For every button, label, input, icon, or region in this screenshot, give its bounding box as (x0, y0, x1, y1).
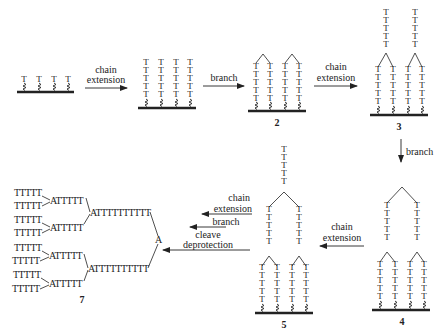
nucleotide-t: T (187, 89, 193, 99)
arrow-label: chain (228, 192, 250, 203)
nucleotide-t: T (274, 294, 280, 304)
mid-sequence: ATTTTT (50, 195, 84, 206)
mid-sequence: ATTTTT (49, 250, 83, 261)
nucleotide-t: T (65, 74, 71, 84)
trunk-sequence: ATTTTTTTTTT (88, 263, 149, 274)
arrow-label: chain (325, 61, 347, 72)
mid-sequence: ATTTTT (49, 278, 83, 289)
arrow-chain-extension-3: chain extension (320, 221, 364, 246)
structure-4: TTTTTTTTTTTTTTTTTTTTTTTTTTTTTT 4 (372, 187, 430, 327)
nucleotide-t: T (375, 96, 381, 106)
arrow-label: deprotection (183, 239, 233, 250)
trunk-sequence: ATTTTTTTTTT (90, 207, 151, 218)
arrow-final-steps: chain extension branch cleave deprotecti… (163, 192, 252, 250)
arrow-label: extension (317, 72, 355, 83)
structure-5: TTTTTTTTTTTTTTTTTTTTTTTTTTTTTTTTTTT 5 (255, 144, 313, 330)
dendrimer-synthesis-scheme: T T T T chain extension TTTTTTTTTTTTTTTT… (0, 0, 447, 336)
arrow-label: branch (210, 72, 237, 83)
compound-label-7: 7 (80, 294, 85, 305)
nucleotide-t: T (405, 96, 411, 106)
nucleotide-t: T (407, 291, 413, 301)
nucleotide-t: T (384, 232, 390, 242)
arrow-label: branch (212, 216, 239, 227)
leaf-sequence: TTTTT (13, 269, 41, 280)
arrow-label: extension (323, 232, 361, 243)
nucleotide-t: T (158, 89, 164, 99)
leaf-sequence: TTTTT (12, 255, 40, 266)
core-branch: A (155, 234, 163, 245)
leaf-sequence: TTTTT (14, 242, 42, 253)
arrow-label: extension (87, 74, 125, 85)
nucleotide-t: T (390, 96, 396, 106)
leaf-sequence: TTTTT (14, 200, 42, 211)
arrow-label: extension (214, 203, 252, 214)
arrow-label: chain (331, 221, 353, 232)
leaf-sequence: TTTTT (14, 227, 42, 238)
leaf-sequence: TTTTT (14, 187, 42, 198)
structure-extended-strands: TTTTTTTTTTTTTTTTTTTT (138, 57, 196, 108)
mid-sequence: ATTTTT (50, 222, 84, 233)
linker-strands (23, 83, 70, 91)
nucleotide-t: T (296, 93, 302, 103)
compound-label-3: 3 (397, 121, 402, 132)
nucleotide-t: T (21, 74, 27, 84)
nucleotide-t: T (267, 93, 273, 103)
arrow-label: branch (406, 146, 433, 157)
leaf-sequence: TTTTT (12, 283, 40, 294)
nucleotide-t: T (412, 39, 418, 49)
nucleotide-t: T (303, 294, 309, 304)
nucleotide-t: T (282, 93, 288, 103)
nucleotide-t: T (419, 96, 425, 106)
nucleotide-t: T (414, 232, 420, 242)
nucleotide-t: T (377, 291, 383, 301)
nucleotide-t: T (173, 89, 179, 99)
arrow-chain-extension-1: chain extension (85, 64, 127, 88)
structure-3: TTTTTTTTTTTTTTTTTTTTTTTTTTTTTT 3 (370, 7, 428, 132)
nucleotide-t: T (51, 74, 57, 84)
structure-2: TTTTTTTTTTTTTTTTTTTT 2 (248, 54, 306, 128)
compound-label-5: 5 (282, 319, 287, 330)
nucleotide-t: T (392, 291, 398, 301)
nucleotide-t: T (383, 39, 389, 49)
leaf-sequence: TTTTT (14, 214, 42, 225)
nucleotide-t: T (36, 74, 42, 84)
compound-label-2: 2 (275, 117, 280, 128)
arrow-branch-1: branch (203, 72, 244, 86)
nucleotide-t: T (143, 89, 149, 99)
nucleotide-t: T (289, 294, 295, 304)
nucleotide-t: T (421, 291, 427, 301)
structure-1-starting-support: T T T T (17, 74, 74, 92)
nucleotide-t: T (253, 93, 259, 103)
product-7: TTTTT TTTTT TTTTT TTTTT TTTTT TTTTT TTTT… (12, 187, 163, 294)
nucleotide-t: T (259, 294, 265, 304)
compound-label-4: 4 (400, 316, 405, 327)
arrow-branch-2: branch (401, 139, 433, 162)
nucleotide-t: T (281, 176, 287, 186)
nucleotide-t: T (296, 236, 302, 246)
arrow-chain-extension-2: chain extension (314, 61, 357, 86)
nucleotide-t: T (266, 236, 272, 246)
